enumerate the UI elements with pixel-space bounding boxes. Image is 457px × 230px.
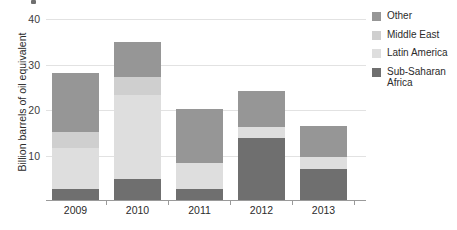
- clipped-mark: [31, 0, 36, 4]
- legend-label: Middle East: [387, 29, 439, 41]
- chart-container: Billion barrels of oil equivalent 102030…: [0, 0, 457, 230]
- x-tick-mark: [106, 201, 107, 205]
- y-tick-label: 40: [28, 13, 40, 25]
- legend: OtherMiddle EastLatin AmericaSub-Saharan…: [372, 10, 456, 96]
- y-tick-label: 20: [28, 104, 40, 116]
- x-tick-label: 2009: [52, 204, 99, 216]
- legend-swatch-icon: [372, 68, 381, 77]
- legend-label: Other: [387, 10, 412, 22]
- x-tick-label: 2013: [300, 204, 347, 216]
- x-tick-label: 2010: [114, 204, 161, 216]
- legend-item[interactable]: Middle East: [372, 29, 456, 41]
- x-tick-label: 2011: [176, 204, 223, 216]
- x-axis-ticks: 20092010201120122013: [46, 0, 366, 230]
- legend-item[interactable]: Sub-Saharan Africa: [372, 66, 456, 89]
- y-axis-ticks: 10203040: [0, 8, 44, 201]
- legend-swatch-icon: [372, 12, 381, 21]
- x-tick-label: 2012: [238, 204, 285, 216]
- legend-item[interactable]: Other: [372, 10, 456, 22]
- x-tick-mark: [168, 201, 169, 205]
- y-tick-label: 30: [28, 59, 40, 71]
- x-tick-mark: [230, 201, 231, 205]
- x-tick-mark: [354, 201, 355, 205]
- legend-swatch-icon: [372, 49, 381, 58]
- x-tick-mark: [292, 201, 293, 205]
- legend-label: Latin America: [387, 47, 448, 59]
- y-tick-label: 10: [28, 150, 40, 162]
- legend-swatch-icon: [372, 31, 381, 40]
- legend-label: Sub-Saharan Africa: [387, 66, 456, 89]
- legend-item[interactable]: Latin America: [372, 47, 456, 59]
